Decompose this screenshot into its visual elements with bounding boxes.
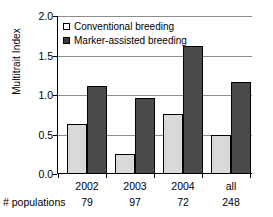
populations-value-2002: 79 [81, 196, 93, 208]
x-tick-start [58, 174, 59, 178]
legend-item-conventional: Conventional breeding [63, 20, 187, 33]
x-label-2004: 2004 [171, 180, 194, 192]
populations-row-label: # populations [3, 196, 65, 208]
bar-conventional-2002[interactable] [67, 124, 87, 174]
bar-marker-2004[interactable] [183, 46, 203, 174]
y-tick-label-1-0: 1.0 [7, 89, 53, 101]
open-square-icon [63, 23, 70, 30]
chart-legend: Conventional breeding Marker-assisted br… [63, 20, 187, 48]
x-tick-end [250, 174, 251, 178]
chart-figure: Multitrait Index 2.0 1.5 1.0 0.5 0.0 [0, 0, 273, 217]
x-label-all: all [226, 180, 237, 192]
populations-value-2003: 97 [129, 196, 141, 208]
populations-value-all: 248 [222, 196, 240, 208]
filled-square-icon [63, 37, 70, 44]
y-tick-label-1-5: 1.5 [7, 50, 53, 62]
legend-label-conventional: Conventional breeding [74, 21, 174, 32]
bar-conventional-2003[interactable] [115, 154, 135, 174]
bar-marker-all[interactable] [231, 82, 251, 174]
y-tick-mark-0-0 [53, 174, 57, 175]
bar-conventional-2004[interactable] [163, 114, 183, 174]
bar-conventional-all[interactable] [211, 135, 231, 175]
y-axis-ticks: 2.0 1.5 1.0 0.5 0.0 [0, 16, 53, 174]
y-tick-label-0-0: 0.0 [7, 168, 53, 180]
y-tick-label-2-0: 2.0 [7, 10, 53, 22]
legend-label-marker-assisted: Marker-assisted breeding [74, 35, 187, 46]
legend-item-marker-assisted: Marker-assisted breeding [63, 34, 187, 47]
bar-marker-2002[interactable] [87, 86, 107, 174]
x-label-2003: 2003 [123, 180, 146, 192]
x-tick-1 [106, 174, 107, 178]
bar-marker-2003[interactable] [135, 98, 155, 174]
x-label-2002: 2002 [75, 180, 98, 192]
x-tick-3 [202, 174, 203, 178]
y-tick-label-0-5: 0.5 [7, 129, 53, 141]
populations-value-2004: 72 [177, 196, 189, 208]
x-tick-2 [154, 174, 155, 178]
